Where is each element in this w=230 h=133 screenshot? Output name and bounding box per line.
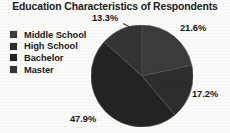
legend-item-label: High School (24, 41, 78, 51)
legend-item-label: Bachelor (24, 53, 63, 63)
slice-label-bachelor: 47.9% (70, 114, 96, 124)
pie-chart-figure: Education Characteristics of Respondents… (0, 0, 230, 133)
legend-swatch-icon (9, 65, 18, 74)
legend-swatch-icon (9, 30, 18, 39)
slice-label-master: 13.3% (92, 13, 118, 23)
legend-item-high-school: High School (9, 41, 86, 53)
legend-item-middle-school: Middle School (9, 29, 86, 41)
legend-item-master: Master (9, 64, 86, 76)
chart-legend: Middle School High School Bachelor Maste… (9, 29, 86, 75)
legend-item-label: Master (24, 65, 54, 75)
pie-slices (91, 25, 193, 127)
legend-item-label: Middle School (24, 30, 86, 40)
pie-graphic (91, 25, 193, 127)
slice-label-middle-school: 21.6% (180, 23, 206, 33)
chart-title: Education Characteristics of Respondents (0, 1, 230, 12)
legend-swatch-icon (9, 53, 18, 62)
legend-item-bachelor: Bachelor (9, 52, 86, 64)
legend-swatch-icon (9, 42, 18, 51)
slice-label-high-school: 17.2% (192, 89, 218, 99)
